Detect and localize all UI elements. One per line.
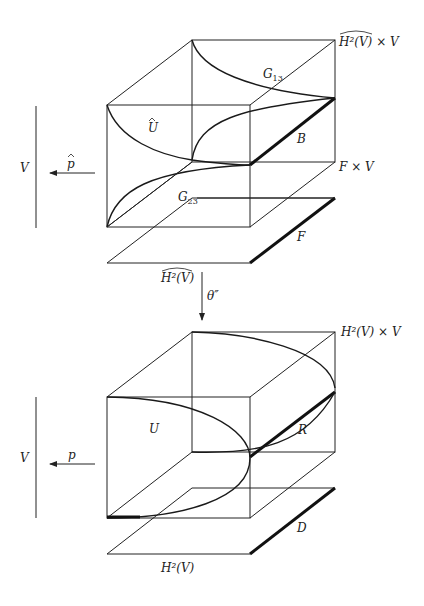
bottom-figure: H²(V) × V U R D H²(V) V p: [20, 325, 402, 575]
label-p-hat: p: [67, 157, 75, 171]
label-total-space: H²(V) × V: [340, 325, 402, 339]
bottom-labels: H²(V) × V U R D H²(V): [149, 325, 402, 575]
label-V-bottom: V: [20, 451, 30, 465]
bottom-cube-back-face: [192, 332, 335, 452]
label-D: D: [296, 521, 307, 535]
connecting-map: θ″: [202, 272, 219, 320]
bottom-cube-front-face: [107, 397, 250, 518]
top-cube-edge: [250, 162, 335, 227]
label-G23: G23: [178, 190, 198, 206]
curve-upper-parabola: [192, 332, 335, 388]
diagram-canvas: H²(V) × V G13 U B F × V G23 F H²(V) V p …: [0, 0, 424, 606]
label-base: H²(V): [160, 561, 195, 575]
label-F-times-V: F × V: [338, 160, 375, 174]
label-U-hat: U: [148, 121, 159, 135]
top-figure: H²(V) × V G13 U B F × V G23 F H²(V) V p: [20, 31, 400, 285]
top-labels: H²(V) × V G13 U B F × V G23 F H²(V): [148, 31, 400, 285]
top-cube-edge: [107, 40, 192, 105]
label-V-top: V: [20, 161, 30, 175]
label-total-space-hat: H²(V) × V: [338, 35, 400, 49]
bottom-projection: V p: [20, 397, 95, 518]
label-theta: θ″: [207, 289, 219, 303]
label-base-hat: H²(V): [160, 271, 195, 285]
top-projection: V p: [20, 106, 95, 228]
curve-U-hat-boundary: [107, 105, 250, 165]
label-G13: G13: [263, 67, 283, 83]
hat-accent: [340, 31, 372, 34]
curve-G13-lower: [192, 98, 335, 160]
label-B: B: [296, 132, 306, 146]
top-base-edge-F: [250, 198, 335, 263]
label-p: p: [68, 448, 76, 462]
label-U: U: [149, 422, 160, 436]
curve-U-boundary: [107, 397, 250, 518]
label-F: F: [296, 230, 306, 244]
label-R: R: [297, 423, 307, 437]
curve-R: [192, 392, 335, 452]
bottom-base-edge-D: [250, 488, 335, 554]
